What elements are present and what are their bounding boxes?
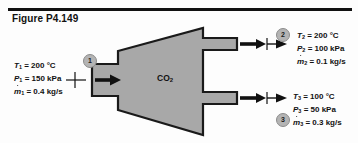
outlet-3-value-0: = 100 °C — [301, 92, 335, 101]
inlet-1-property-2: m1 = 0.4 kg/s — [14, 86, 63, 99]
outlet-3-flow-arrow — [240, 92, 287, 104]
outlet-2-property-2: m2 = 0.1 kg/s — [297, 56, 346, 69]
outlet-3-property-0: T3 = 100 °C — [293, 91, 342, 104]
working-fluid-subscript: 2 — [170, 77, 173, 83]
outlet-3-value-2: = 0.3 kg/s — [303, 118, 341, 127]
outlet-2-property-0: T2 = 200 °C — [297, 30, 346, 43]
inlet-1-symbol-2: m — [14, 87, 21, 96]
stream-3-state-labels: T3 = 100 °CP3 = 50 kPam3 = 0.3 kg/s — [293, 91, 342, 130]
outlet-2-value-0: = 200 °C — [305, 31, 339, 40]
outlet-2-value-1: = 100 kPa — [305, 44, 344, 53]
stream-2-state-labels: T2 = 200 °CP2 = 100 kPam2 = 0.1 kg/s — [297, 30, 346, 69]
stream-badge-2-label: 2 — [277, 31, 289, 38]
working-fluid-symbol: CO — [157, 73, 170, 83]
outlet-2-property-1: P2 = 100 kPa — [297, 43, 346, 56]
outlet-2-symbol-2: m — [297, 57, 304, 66]
figure-root: Figure P4.149 — [0, 0, 358, 143]
outlet-2-value-2: = 0.1 kg/s — [307, 57, 345, 66]
inlet-1-value-0: = 200 °C — [22, 61, 56, 70]
stream-badge-3-label: 3 — [277, 116, 289, 123]
outlet-3-property-2: m3 = 0.3 kg/s — [293, 117, 342, 130]
inlet-1-property-1: P1 = 150 kPa — [14, 73, 63, 86]
inlet-1-property-0: T1 = 200 °C — [14, 60, 63, 73]
inlet-1-value-2: = 0.4 kg/s — [24, 87, 62, 96]
outlet-3-symbol-2: m — [293, 118, 300, 127]
outlet-3-property-1: P3 = 50 kPa — [293, 104, 342, 117]
stream-1-state-labels: T1 = 200 °CP1 = 150 kPam1 = 0.4 kg/s — [14, 60, 63, 99]
inlet-1-value-1: = 150 kPa — [22, 74, 61, 83]
stream-badge-1-label: 1 — [84, 57, 96, 64]
outlet-3-value-1: = 50 kPa — [301, 105, 335, 114]
working-fluid-label: CO2 — [157, 73, 173, 83]
